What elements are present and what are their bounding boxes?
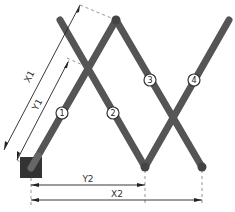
top-pivot	[112, 16, 121, 25]
x2-arrow-left	[31, 198, 39, 202]
link-2-marker: 2	[107, 107, 119, 119]
link-1-marker: 1	[56, 107, 68, 119]
y2-label: Y2	[81, 174, 93, 184]
link-2-label: 2	[110, 109, 115, 118]
link-3-label: 3	[147, 76, 152, 85]
diagram-canvas: X1 Y1 Y2 X2 1 2 3 4	[0, 0, 235, 212]
x1-dimension-line	[4, 5, 80, 150]
x1-extension-top	[80, 5, 116, 20]
y2-arrow-right	[137, 183, 145, 187]
x1-arrow-bottom	[4, 141, 8, 150]
y2-arrow-left	[31, 183, 39, 187]
bottom-pivot-2	[198, 163, 207, 172]
x2-arrow-right	[194, 198, 202, 202]
link-1-label: 1	[59, 109, 64, 118]
link-4-marker: 4	[188, 74, 200, 86]
y1-arrow-top	[64, 60, 69, 68]
x2-label: X2	[111, 189, 123, 199]
link-3-marker: 3	[144, 74, 156, 86]
link-4-label: 4	[191, 76, 196, 85]
scissor-mechanism-diagram: X1 Y1 Y2 X2 1 2 3 4	[0, 0, 235, 212]
x1-label: X1	[22, 69, 36, 84]
bottom-pivot-1	[141, 163, 150, 172]
y1-label: Y1	[30, 97, 45, 112]
